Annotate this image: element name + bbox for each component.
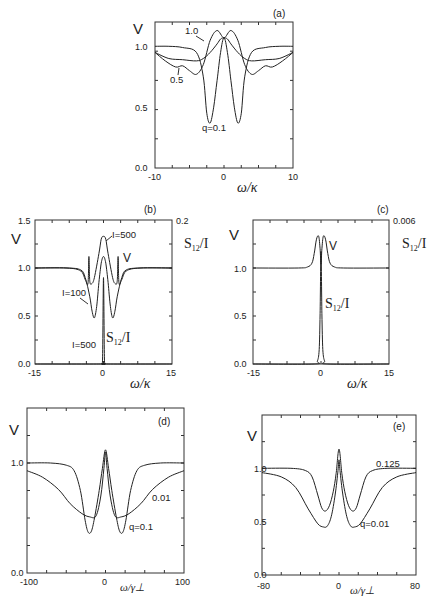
panel-a-arrow-1.0 bbox=[196, 36, 204, 41]
series-curve-1.0 bbox=[155, 30, 293, 74]
panel-c-frame bbox=[253, 220, 389, 364]
panel-c-ylabel-right: S12/I bbox=[402, 236, 427, 253]
figure-canvas: (a) V 1.0 0.5 0.0 -10 0 10 ω/κ 1.0 0.5 q… bbox=[0, 0, 433, 606]
series-curve-s12-i bbox=[253, 252, 389, 365]
panel-b-annot-I100: I=100 bbox=[62, 287, 86, 298]
panel-a-ytick-1.0: 1.0 bbox=[135, 42, 148, 52]
panel-d-xtick-100: 100 bbox=[175, 577, 190, 587]
panel-e-annot-q: q=0.01 bbox=[360, 518, 389, 529]
panel-e-ytick-0.0: 0.0 bbox=[254, 570, 267, 580]
panel-a-ylabel: V bbox=[133, 20, 143, 37]
panel-e-xtick-neg80: -80 bbox=[257, 581, 270, 591]
panel-a-xlabel: ω/κ bbox=[237, 180, 258, 195]
panel-d-xtick-neg100: -100 bbox=[20, 577, 38, 587]
panel-a-annot-0.5: 0.5 bbox=[170, 74, 183, 85]
panel-d-ytick-1.0: 1.0 bbox=[11, 458, 24, 468]
panel-a-label: (a) bbox=[273, 8, 285, 19]
panel-b: (b) V 1.5 1.0 0.5 0.0 -15 0 15 ω/κ 0.2 S… bbox=[11, 204, 209, 391]
panel-b-ytick-0.5: 0.5 bbox=[18, 311, 31, 321]
panel-b-xtick-neg15: -15 bbox=[28, 368, 41, 378]
panel-b-xtick-0: 0 bbox=[100, 368, 105, 378]
panel-c-label: (c) bbox=[377, 204, 389, 215]
panel-b-ylabel-right: S12/I bbox=[184, 236, 209, 253]
panel-e-xlabel: ω/γ⊥ bbox=[350, 584, 375, 596]
series-curve-q-0.01 bbox=[262, 460, 416, 528]
panel-b-annot-I500-bottom: I=500 bbox=[72, 339, 96, 350]
panel-e: (e) V 1.0 0.5 0.0 -80 0 80 ω/γ⊥ 0.125 q=… bbox=[247, 415, 420, 596]
panel-a-xtick-neg10: -10 bbox=[148, 172, 161, 182]
panel-e-xtick-0: 0 bbox=[336, 581, 341, 591]
panel-b-annot-S12: S12/I bbox=[106, 330, 131, 347]
panel-e-xtick-80: 80 bbox=[410, 581, 420, 591]
panel-a-frame bbox=[155, 22, 293, 168]
panel-c-ytick-right-0.006: 0.006 bbox=[393, 216, 416, 226]
panel-b-ytick-1.0: 1.0 bbox=[18, 263, 31, 273]
panel-c-ytick-1.0: 1.0 bbox=[234, 264, 247, 274]
panel-d-annot-q: q=0.1 bbox=[129, 521, 153, 532]
panel-d-xtick-0: 0 bbox=[102, 577, 107, 587]
panel-a-xtick-0: 0 bbox=[221, 172, 226, 182]
panel-c: (c) V 1.0 0.5 0.0 -15 0 15 ω/κ 0.006 S12… bbox=[229, 204, 427, 391]
panel-a-xtick-10: 10 bbox=[288, 172, 298, 182]
series-curve-0.5 bbox=[155, 38, 293, 61]
panel-e-label: (e) bbox=[393, 421, 405, 432]
panel-d-annot-0.01: 0.01 bbox=[152, 492, 171, 503]
panel-a-curves bbox=[155, 22, 293, 168]
panel-c-xtick-15: 15 bbox=[384, 368, 394, 378]
panel-e-frame bbox=[262, 415, 416, 575]
panel-a-ytick-0.0: 0.0 bbox=[135, 163, 148, 173]
panel-d-xlabel: ω/γ⊥ bbox=[120, 581, 145, 593]
panel-a: (a) V 1.0 0.5 0.0 -10 0 10 ω/κ 1.0 0.5 q… bbox=[133, 8, 298, 195]
panel-b-annot-I500-top: I=500 bbox=[112, 229, 136, 240]
panel-d: (d) V 1.0 0.0 -100 0 100 ω/γ⊥ 0.01 q=0.1 bbox=[9, 408, 190, 593]
panel-c-annot-V: V bbox=[329, 239, 337, 253]
panel-e-curves bbox=[262, 415, 416, 575]
panel-d-ylabel: V bbox=[9, 421, 19, 438]
panel-e-ytick-1.0: 1.0 bbox=[254, 464, 267, 474]
series-curve-s12-i-i-500- bbox=[35, 278, 172, 365]
panel-a-ytick-0.5: 0.5 bbox=[135, 103, 148, 113]
panel-c-ytick-0.0: 0.0 bbox=[234, 359, 247, 369]
panel-b-xtick-15: 15 bbox=[166, 368, 176, 378]
panel-e-ylabel: V bbox=[247, 427, 257, 444]
series-curve-0.01 bbox=[27, 452, 184, 518]
panel-b-ytick-right-0.2: 0.2 bbox=[176, 216, 189, 226]
panel-b-ytick-1.5: 1.5 bbox=[18, 216, 31, 226]
panel-b-label: (b) bbox=[144, 204, 156, 215]
panel-d-frame bbox=[27, 408, 184, 573]
panel-b-curves bbox=[35, 220, 172, 365]
panel-c-xtick-0: 0 bbox=[318, 368, 323, 378]
panel-c-xtick-neg15: -15 bbox=[247, 368, 260, 378]
panel-b-ylabel: V bbox=[11, 230, 21, 247]
panel-c-annot-S12: S12/I bbox=[325, 296, 350, 313]
panel-d-label: (d) bbox=[158, 416, 170, 427]
panel-b-annot-V: V bbox=[123, 251, 131, 265]
panel-b-arrow-I100 bbox=[80, 298, 88, 304]
panel-d-curves bbox=[27, 408, 184, 573]
panel-c-ytick-0.5: 0.5 bbox=[234, 311, 247, 321]
panel-c-xlabel: ω/κ bbox=[347, 376, 368, 391]
panel-c-ylabel: V bbox=[229, 226, 239, 243]
panel-a-annot-q: q=0.1 bbox=[202, 122, 226, 133]
panel-b-xlabel: ω/κ bbox=[130, 376, 151, 391]
panel-c-curves bbox=[253, 220, 389, 364]
panel-e-annot-0.125: 0.125 bbox=[376, 458, 400, 469]
panel-a-annot-1.0: 1.0 bbox=[185, 25, 198, 36]
